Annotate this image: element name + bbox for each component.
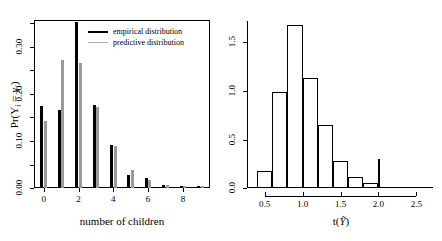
right-y-tick-0.0 [243,188,247,189]
right-x-axis-title: t(Ỹ) [333,216,350,227]
left-y-minor-tick [30,165,34,166]
legend-swatch-empirical [88,31,108,33]
left-y-tick-0.30 [30,47,34,48]
right-y-tick-1.5 [243,42,247,43]
left-y-minor-tick [30,23,34,24]
left-x-tick-0 [44,188,45,192]
bar-predictive-x0 [44,121,47,188]
y-axis-title-sub-i-2: i [14,85,23,87]
left-x-axis-title: number of children [80,216,164,227]
right-x-tick-2.0 [378,192,379,196]
right-x-tick-label-0.5: 0.5 [259,200,270,209]
histogram-bin-3 [303,78,318,188]
histogram-bin-5 [333,161,348,188]
right-x-tick-2.5 [416,192,417,196]
left-x-tick-label-6: 6 [146,195,151,204]
right-x-title-suffix: ) [346,215,350,227]
right-x-tick-label-2.5: 2.5 [411,200,422,209]
histogram-bin-7 [363,183,378,188]
right-y-tick-label-0.0: 0.0 [228,179,237,197]
observed-statistic-line [378,159,380,188]
right-y-tick-1.0 [243,91,247,92]
right-x-tick-0.5 [265,192,266,196]
right-y-tick-label-1.5: 1.5 [228,33,237,51]
right-x-tick-label-2.0: 2.0 [373,200,384,209]
right-y-tick-0.5 [243,140,247,141]
right-x-tick-1.0 [303,192,304,196]
histogram-bin-0 [257,171,272,188]
bar-predictive-x9 [201,186,204,188]
y-axis-title-part3: ) [8,82,20,86]
histogram-bin-2 [287,25,302,188]
panel-posterior-predictive-histogram: 0.51.01.52.02.5 0.00.51.01.5 t(Ỹ) [221,0,442,241]
legend-label-0: empirical distribution [113,26,182,37]
right-x-tick-label-1.5: 1.5 [335,200,346,209]
right-y-tick-label-0.5: 0.5 [228,130,237,148]
right-y-tick-label-1.0: 1.0 [228,81,237,99]
left-x-tick-8 [183,188,184,192]
panel-empirical-vs-predictive: 02468 0.000.100.200.30 number of childre… [0,0,221,241]
bar-predictive-x2 [79,63,82,188]
bar-predictive-x7 [166,185,169,188]
right-x-axis-rule [265,196,417,197]
left-y-tick-0.20 [30,94,34,95]
y-axis-title-part2: = y [8,87,20,104]
bar-predictive-x4 [114,146,117,188]
left-y-tick-label-0.00: 0.00 [15,177,24,199]
right-x-title-prefix: t( [333,215,340,227]
histogram-bin-4 [318,125,333,188]
left-y-minor-tick [30,70,34,71]
left-x-tick-label-4: 4 [111,195,116,204]
y-axis-title-part1: Pr(Y [8,107,20,128]
legend-swatch-predictive [88,42,108,43]
right-histogram-area [248,21,433,188]
bar-predictive-x3 [96,107,99,188]
left-y-tick-label-0.30: 0.30 [15,35,24,57]
left-y-tick-0.10 [30,141,34,142]
histogram-bin-1 [272,92,287,188]
legend-label-1: predictive distribution [113,37,184,48]
bar-predictive-x6 [148,180,151,188]
bar-predictive-x1 [61,60,64,188]
right-x-tick-1.5 [341,192,342,196]
histogram-bin-6 [348,177,363,188]
left-x-tick-label-0: 0 [41,195,46,204]
left-x-tick-2 [79,188,80,192]
bar-predictive-x5 [131,170,134,188]
left-x-tick-6 [148,188,149,192]
left-y-minor-tick [30,117,34,118]
left-y-tick-0.00 [30,188,34,189]
left-x-tick-4 [113,188,114,192]
figure-container: 02468 0.000.100.200.30 number of childre… [0,0,442,241]
right-x-tick-label-1.0: 1.0 [297,200,308,209]
left-y-axis-title: Pr(Yi = yi) [9,65,23,145]
left-x-tick-label-2: 2 [76,195,81,204]
left-x-tick-label-8: 8 [181,195,186,204]
y-axis-title-sub-i-1: i [14,105,23,107]
